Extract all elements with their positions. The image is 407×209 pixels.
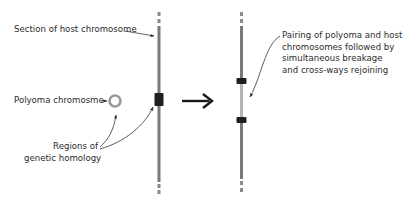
inserted-polyoma-segment xyxy=(240,79,243,121)
label-pairing-line4: and cross-ways rejoining xyxy=(282,65,402,77)
label-pairing-line1: Pairing of polyoma and host xyxy=(282,30,402,42)
label-pairing-line3: simultaneous breakage xyxy=(282,53,402,65)
polyoma-ring-icon xyxy=(110,96,121,107)
label-host-section: Section of host chromosome xyxy=(14,24,137,36)
label-regions-line2: genetic homology xyxy=(24,153,98,165)
host-chromosome-left xyxy=(155,12,164,194)
label-regions-line1: Regions of xyxy=(24,141,98,153)
homology-band-right-top xyxy=(237,78,247,84)
pointer-line-right xyxy=(250,36,280,97)
label-regions: Regions of genetic homology xyxy=(24,141,98,164)
label-pairing-line2: chromosomes followed by xyxy=(282,42,402,54)
homology-band-left xyxy=(155,93,164,106)
pointer-lines-left xyxy=(100,31,154,149)
label-polyoma: Polyoma chromosme xyxy=(14,95,104,107)
transition-arrow-icon xyxy=(182,94,212,108)
host-chromosome-right xyxy=(237,12,247,192)
homology-band-right-bottom xyxy=(237,117,247,123)
label-pairing: Pairing of polyoma and host chromosomes … xyxy=(282,30,402,76)
